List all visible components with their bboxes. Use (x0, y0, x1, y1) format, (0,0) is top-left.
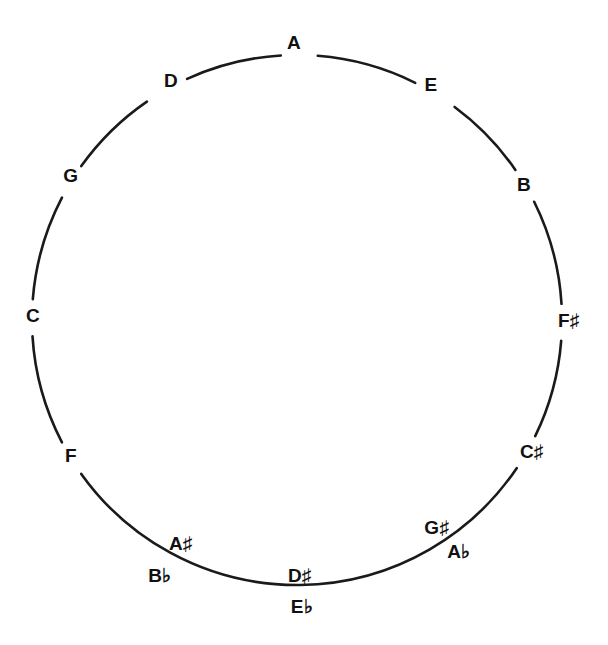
ring-arc-segment (318, 56, 415, 83)
note-label-e: E (424, 75, 437, 94)
note-label-c: C (26, 306, 40, 325)
note-label-e-flat: E♭ (291, 597, 314, 616)
note-label-f-sharp: F♯ (558, 311, 580, 330)
note-label-b: B (517, 175, 531, 194)
note-label-f: F (65, 446, 77, 465)
ring-arc-segment (81, 102, 147, 167)
note-label-g-sharp: G♯ (424, 518, 449, 537)
note-label-d-sharp: D♯ (288, 566, 312, 585)
ring-arc-segment (33, 198, 62, 300)
note-label-a-flat: A♭ (447, 542, 471, 561)
circle-ring (32, 55, 561, 585)
ring-arc-segment (32, 336, 61, 442)
ring-arc-segment (535, 341, 561, 436)
ring-arc-segment (455, 107, 516, 170)
ring-arc-segment (534, 202, 561, 304)
note-label-d: D (164, 71, 178, 90)
ring-arc-segment (187, 55, 281, 78)
note-label-a-sharp: A♯ (169, 534, 193, 553)
circle-of-fifths-diagram (0, 0, 608, 645)
note-label-b-flat: B♭ (148, 566, 172, 585)
note-label-a: A (287, 33, 301, 52)
note-label-g: G (63, 166, 78, 185)
note-label-c-sharp: C♯ (520, 442, 544, 461)
